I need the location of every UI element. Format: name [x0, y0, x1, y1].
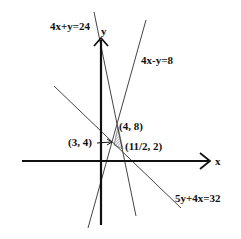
y-axis-label: y [101, 26, 107, 37]
label-line-5y-plus-4x-32: 5y+4x=32 [175, 193, 221, 204]
label-point-11-2-2: (11/2, 2) [125, 141, 162, 152]
label-point-4-8: (4, 8) [119, 121, 143, 132]
label-line-4x-minus-y-8: 4x-y=8 [141, 55, 173, 66]
graph-canvas: 4x+y=24 y 4x-y=8 (4, 8) (3, 4) (11/2, 2)… [0, 0, 241, 239]
x-axis-label: x [215, 156, 221, 167]
label-point-3-4: (3, 4) [68, 137, 92, 148]
point-3-4-pointer [97, 142, 111, 143]
label-line-4x-plus-y-24: 4x+y=24 [50, 21, 90, 32]
